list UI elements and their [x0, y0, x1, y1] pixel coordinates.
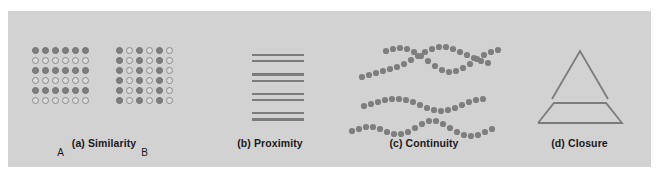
curve-dot [436, 44, 442, 50]
dot-row [32, 97, 89, 104]
curve-dot [438, 108, 444, 114]
curve-dot [394, 64, 400, 70]
open-dot [72, 57, 79, 64]
filled-dot [156, 77, 163, 84]
open-dot [32, 97, 39, 104]
filled-dot [72, 47, 79, 54]
dot-row [32, 67, 89, 74]
curve-dot [387, 66, 393, 72]
filled-dot [116, 77, 123, 84]
curve-dot [359, 74, 365, 80]
open-dot [42, 77, 49, 84]
horizontal-line [252, 118, 304, 120]
filled-dot [116, 47, 123, 54]
curve-dot [480, 96, 486, 102]
curve-dot [425, 58, 431, 64]
triangle-apex-icon [552, 51, 608, 99]
open-dot [166, 47, 173, 54]
triangle-base-icon [538, 103, 622, 123]
curve-dot [389, 96, 395, 102]
curve-dot [447, 125, 453, 131]
filled-dot [136, 77, 143, 84]
filled-dot [116, 97, 123, 104]
curve-dot [431, 107, 437, 113]
curve-dot [460, 65, 466, 71]
dot-group-b-grid [116, 47, 173, 104]
dot-row [116, 47, 173, 54]
caption-continuity: (c) Continuity [340, 137, 508, 149]
filled-dot [62, 67, 69, 74]
open-dot [62, 77, 69, 84]
filled-dot [52, 47, 59, 54]
curve-dot [396, 96, 402, 102]
open-dot [52, 77, 59, 84]
dot-group-a-grid [32, 47, 89, 104]
gestalt-principles-figure: A B (a) Similarity (b) Proximity (c) Con… [0, 0, 662, 181]
filled-dot [52, 87, 59, 94]
line-pair [252, 54, 304, 62]
panel-proximity: (b) Proximity [200, 11, 340, 167]
curve-dot [452, 105, 458, 111]
horizontal-line [252, 112, 304, 114]
filled-dot [82, 47, 89, 54]
dot-row [116, 77, 173, 84]
open-dot [166, 87, 173, 94]
open-dot [166, 97, 173, 104]
curve-dot [467, 61, 473, 67]
filled-dot [156, 47, 163, 54]
curve-dot [426, 118, 432, 124]
dot-row [32, 77, 89, 84]
curve-dot [466, 99, 472, 105]
curve-dot [419, 121, 425, 127]
horizontal-line [252, 54, 304, 56]
open-dot [72, 77, 79, 84]
panel-similarity: A B (a) Similarity [8, 11, 200, 167]
figure-panel-background: A B (a) Similarity (b) Proximity (c) Con… [8, 11, 651, 167]
curve-dot [474, 56, 480, 62]
curve-dot [375, 99, 381, 105]
curve-dot [433, 118, 439, 124]
curve-dot [397, 45, 403, 51]
filled-dot [62, 47, 69, 54]
open-dot [52, 97, 59, 104]
curve-dot [443, 44, 449, 50]
dot-group-a: A [32, 47, 89, 107]
curve-dot [411, 49, 417, 55]
curve-dot [408, 57, 414, 63]
curve-dot [377, 126, 383, 132]
curve-dot [473, 97, 479, 103]
line-pair [252, 73, 304, 81]
dot-row [116, 67, 173, 74]
panel-closure: (d) Closure [508, 11, 651, 167]
curve-dot [373, 70, 379, 76]
open-dot [52, 57, 59, 64]
curve-dot [390, 46, 396, 52]
open-dot [82, 77, 89, 84]
curve-dot [382, 97, 388, 103]
curve-dot [384, 129, 390, 135]
curve-dot [405, 129, 411, 135]
filled-dot [82, 67, 89, 74]
filled-dot [72, 67, 79, 74]
filled-dot [82, 87, 89, 94]
dot-row [32, 57, 89, 64]
curve-dot [453, 68, 459, 74]
caption-similarity: (a) Similarity [8, 137, 200, 149]
dot-group-b: B [116, 47, 173, 107]
open-dot [42, 97, 49, 104]
filled-dot [52, 67, 59, 74]
filled-dot [32, 67, 39, 74]
curve-dot [495, 47, 501, 53]
curve-dot [418, 53, 424, 59]
curve-4 [349, 118, 495, 139]
line-pair [252, 93, 304, 101]
open-dot [126, 87, 133, 94]
curve-dot [450, 46, 456, 52]
curve-dot [380, 68, 386, 74]
curve-dot [412, 125, 418, 131]
open-dot [146, 47, 153, 54]
filled-dot [32, 47, 39, 54]
curve-dot [361, 103, 367, 109]
curve-dot [439, 67, 445, 73]
panel-continuity: (c) Continuity [340, 11, 508, 167]
